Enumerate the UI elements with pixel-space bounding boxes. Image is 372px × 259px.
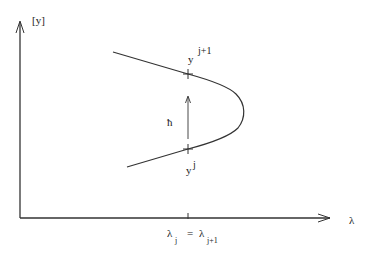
- lower-point-label: y: [186, 164, 192, 176]
- x-tick-sub-j1: j+1: [206, 236, 218, 245]
- y-axis-label: [y]: [32, 14, 45, 26]
- step-label: ħ: [167, 116, 173, 128]
- x-tick-sub-j: j: [174, 236, 177, 245]
- x-tick-equals: =: [187, 227, 193, 239]
- x-axis-label: λ: [349, 214, 355, 226]
- solution-curve: [113, 52, 244, 167]
- upper-point-sup: j+1: [197, 45, 211, 56]
- x-tick-lambda-j1: λ: [199, 227, 205, 239]
- lower-point-sup: j: [192, 159, 196, 170]
- x-tick-lambda-j: λ: [167, 227, 173, 239]
- upper-point-label: y: [188, 53, 194, 65]
- turning-point-diagram: [y] λ λ j = λ j+1 y j+1 y j ħ: [0, 0, 372, 259]
